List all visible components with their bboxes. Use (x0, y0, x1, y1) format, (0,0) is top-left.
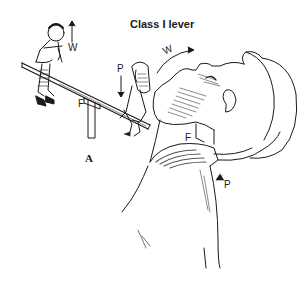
girl-drawing (120, 62, 150, 136)
shoulder-drawing (122, 132, 280, 268)
figure-title: Class I lever (130, 19, 194, 30)
seesaw-force-arrows (69, 21, 124, 97)
head-weight-arc-arrow (157, 50, 192, 73)
class-1-lever-figure: Class I lever W P F A W F P (0, 0, 305, 283)
head-power-label: P (224, 180, 231, 190)
head-fulcrum-label: F (185, 133, 191, 143)
seesaw-power-label: P (117, 64, 124, 74)
boy-drawing (36, 24, 64, 106)
seesaw-weight-label: W (68, 43, 77, 53)
panel-label: A (85, 153, 93, 164)
lever-illustration (0, 0, 305, 283)
seesaw-fulcrum-label: F (78, 99, 84, 109)
